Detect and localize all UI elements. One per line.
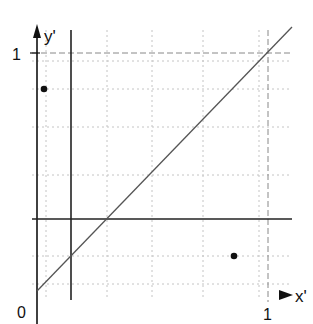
point-upper-left [41,86,48,93]
y-axis-arrow-icon [33,24,41,38]
diagram-canvas: y' 1 0 1 x' [0,0,313,324]
diagonal-line [37,27,292,291]
x-one-label: 1 [263,306,272,323]
y-axis-label: y' [44,27,56,46]
y-one-label: 1 [12,46,21,63]
x-axis-arrow-icon [279,290,293,300]
x-axis-label: x' [295,287,307,306]
point-lower-right [231,253,238,260]
origin-label: 0 [17,304,26,321]
